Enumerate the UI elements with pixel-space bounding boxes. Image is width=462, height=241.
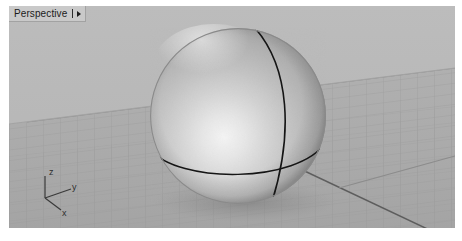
perspective-viewport[interactable]: z y x Perspective [9,6,455,228]
viewport-title-tab[interactable]: Perspective [9,6,86,22]
axis-label-y: y [72,182,77,192]
chevron-down-icon[interactable] [77,11,81,17]
application-window: z y x Perspective [0,0,462,241]
viewport-title-separator [72,9,73,18]
viewport-title-label: Perspective [14,9,67,19]
axis-label-z: z [49,167,54,177]
axis-label-x: x [62,208,67,218]
viewport-scene: z y x [9,6,455,228]
